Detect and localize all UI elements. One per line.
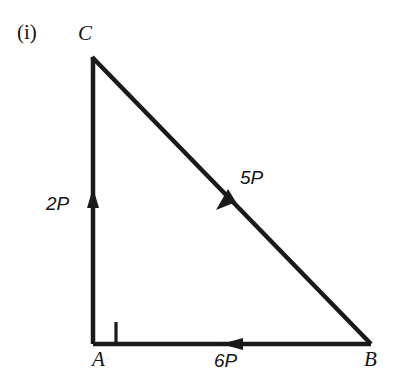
arrowhead-2p-icon: [87, 188, 99, 208]
force-label-2p: 2P: [46, 194, 69, 213]
force-triangle-figure: (i) C A B 2P 5P 6P: [0, 0, 395, 372]
force-label-5p: 5P: [240, 168, 263, 187]
vertex-label-c: C: [78, 23, 92, 44]
vertex-label-a: A: [92, 349, 105, 370]
triangle-diagram: [0, 0, 395, 372]
part-label: (i): [17, 22, 37, 43]
arrowhead-6p-icon: [221, 338, 243, 350]
vertex-label-b: B: [364, 349, 377, 370]
force-label-6p: 6P: [214, 351, 237, 370]
right-angle-marker: [93, 322, 116, 344]
